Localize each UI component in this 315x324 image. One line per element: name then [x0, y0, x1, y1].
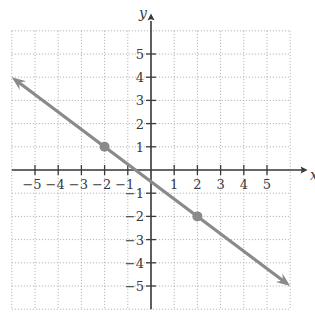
y-tick-label: 2	[136, 117, 144, 132]
x-tick-label: −2	[92, 177, 111, 192]
x-tick-label: 4	[240, 177, 248, 192]
y-tick-label: 3	[136, 93, 144, 108]
data-point	[192, 211, 202, 221]
y-tick-label: −5	[125, 279, 144, 294]
x-tick-label: −5	[22, 177, 41, 192]
y-tick-label: −4	[125, 256, 144, 271]
y-tick-label: 4	[136, 70, 144, 85]
y-tick-label: 5	[136, 47, 144, 62]
data-point	[100, 142, 110, 152]
x-tick-label: −3	[69, 177, 88, 192]
x-tick-label: 5	[263, 177, 271, 192]
coordinate-plane: −5−4−3−2−112345−5−4−3−2−112345 x y	[0, 0, 315, 324]
x-tick-label: 3	[216, 177, 224, 192]
x-axis-label: x	[310, 167, 315, 183]
x-tick-label: −4	[46, 177, 65, 192]
y-tick-label: 1	[136, 140, 144, 155]
x-tick-label: 2	[193, 177, 201, 192]
y-tick-label: −2	[125, 209, 144, 224]
x-tick-label: 1	[170, 177, 178, 192]
y-axis-label: y	[138, 5, 148, 21]
y-tick-label: −1	[125, 186, 144, 201]
y-tick-label: −3	[125, 233, 144, 248]
y-axis-arrow-icon	[148, 13, 155, 20]
